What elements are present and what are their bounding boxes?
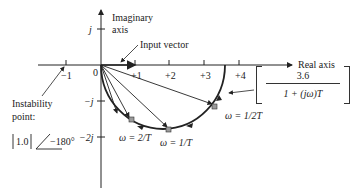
tick-label-neg1: −1	[61, 70, 72, 81]
omega-half-label: ω = 1/2T	[225, 110, 262, 121]
point-omega-one	[166, 127, 171, 132]
transfer-function-denominator: 1 + (jω)T	[254, 88, 352, 99]
tick-label-3: +3	[200, 70, 211, 81]
imag-tick-j: j	[89, 24, 92, 35]
transfer-function-leader	[229, 90, 254, 93]
tick-label-0: 0	[93, 67, 98, 78]
imag-tick-neg-2j: −2j	[79, 132, 94, 143]
instability-label-line1: Instability	[12, 98, 53, 109]
real-axis-ticks	[66, 60, 239, 65]
tick-label-1: +1	[131, 70, 142, 81]
fraction-bar	[266, 83, 340, 84]
input-vector-label: Input vector	[140, 39, 189, 50]
point-omega-two	[129, 117, 134, 122]
omega-one-label: ω = 1/T	[160, 137, 192, 148]
imaginary-axis-label-line2: axis	[112, 24, 128, 35]
tick-label-4: +4	[235, 70, 246, 81]
imaginary-axis-label-line1: Imaginary	[112, 12, 153, 23]
tick-label-2: +2	[165, 70, 176, 81]
right-bracket	[344, 66, 350, 104]
instability-label-line2: point:	[12, 111, 35, 122]
transfer-function: 3.6 1 + (jω)T	[254, 64, 352, 106]
curve-direction-arrow	[137, 126, 144, 130]
vector-omega-half	[101, 65, 212, 104]
point-omega-half	[212, 104, 217, 109]
omega-two-label: ω = 2/T	[119, 132, 151, 143]
instability-magnitude: 1.0	[16, 136, 29, 147]
instability-angle: −180°	[50, 136, 75, 147]
transfer-function-numerator: 3.6	[254, 70, 352, 81]
input-vector-leader	[121, 45, 138, 62]
imag-tick-neg-j: −j	[84, 96, 94, 107]
